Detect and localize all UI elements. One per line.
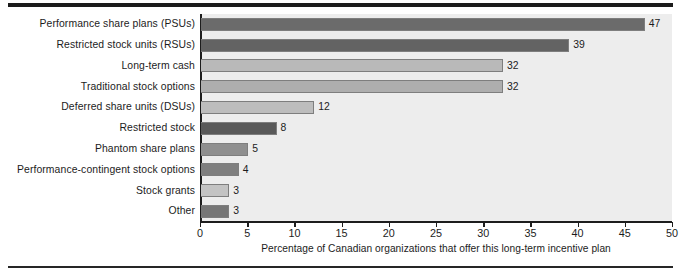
- bar-value-label: 8: [281, 123, 287, 133]
- category-label: Other: [0, 206, 195, 216]
- bar-value-label: 12: [318, 102, 330, 112]
- x-axis-ticks: 05101520253035404550: [0, 222, 681, 244]
- bar-and-value: 47: [201, 14, 660, 35]
- bar: [201, 205, 229, 218]
- bar-value-label: 39: [573, 40, 585, 50]
- bar: [201, 184, 229, 197]
- bar-value-label: 32: [507, 61, 519, 71]
- bar-rows-container: Performance share plans (PSUs)47Restrict…: [0, 14, 681, 222]
- bar-row: Traditional stock options32: [0, 76, 681, 97]
- bar-row: Phantom share plans5: [0, 139, 681, 160]
- bar-and-value: 32: [201, 76, 519, 97]
- bar-row: Restricted stock units (RSUs)39: [0, 35, 681, 56]
- bar-row: Stock grants3: [0, 180, 681, 201]
- bar-row: Long-term cash32: [0, 56, 681, 77]
- x-tick-label: 5: [227, 228, 267, 239]
- x-tick-label: 35: [510, 228, 550, 239]
- category-label: Phantom share plans: [0, 144, 195, 154]
- chart-figure: Performance share plans (PSUs)47Restrict…: [0, 0, 681, 273]
- bar: [201, 59, 503, 72]
- x-axis-title: Percentage of Canadian organizations tha…: [200, 243, 672, 254]
- bar: [201, 163, 239, 176]
- bar-and-value: 12: [201, 97, 330, 118]
- x-tick-label: 15: [322, 228, 362, 239]
- bar: [201, 18, 645, 31]
- category-label: Stock grants: [0, 186, 195, 196]
- x-tick-label: 40: [558, 228, 598, 239]
- category-label: Performance share plans (PSUs): [0, 19, 195, 29]
- bar-row: Other3: [0, 201, 681, 222]
- bar-and-value: 4: [201, 160, 249, 181]
- bar-and-value: 3: [201, 201, 239, 222]
- x-tick-label: 10: [274, 228, 314, 239]
- x-tick-label: 45: [605, 228, 645, 239]
- x-tick-label: 25: [416, 228, 456, 239]
- bar: [201, 39, 569, 52]
- top-divider-rule: [8, 3, 673, 7]
- x-tick-label: 0: [180, 228, 220, 239]
- x-tick-label: 50: [652, 228, 681, 239]
- x-tick-label: 20: [369, 228, 409, 239]
- bar-and-value: 32: [201, 56, 519, 77]
- bar-and-value: 8: [201, 118, 286, 139]
- category-label: Performance-contingent stock options: [0, 165, 195, 175]
- bar-and-value: 39: [201, 35, 585, 56]
- bar-value-label: 3: [233, 206, 239, 216]
- bar-and-value: 3: [201, 180, 239, 201]
- bar: [201, 143, 248, 156]
- category-label: Restricted stock units (RSUs): [0, 40, 195, 50]
- category-label: Long-term cash: [0, 61, 195, 71]
- category-label: Restricted stock: [0, 123, 195, 133]
- bar-row: Performance share plans (PSUs)47: [0, 14, 681, 35]
- bar-value-label: 47: [649, 19, 661, 29]
- bar-value-label: 3: [233, 186, 239, 196]
- bar-row: Restricted stock8: [0, 118, 681, 139]
- bar-row: Deferred share units (DSUs)12: [0, 97, 681, 118]
- bar-and-value: 5: [201, 139, 258, 160]
- category-label: Traditional stock options: [0, 82, 195, 92]
- bar-value-label: 4: [243, 165, 249, 175]
- bar: [201, 122, 277, 135]
- bar-row: Performance-contingent stock options4: [0, 160, 681, 181]
- bar: [201, 101, 314, 114]
- x-tick-label: 30: [463, 228, 503, 239]
- bar-value-label: 32: [507, 82, 519, 92]
- bottom-divider-rule: [8, 266, 673, 268]
- bar-value-label: 5: [252, 144, 258, 154]
- category-label: Deferred share units (DSUs): [0, 102, 195, 112]
- bar: [201, 80, 503, 93]
